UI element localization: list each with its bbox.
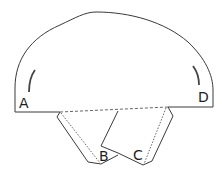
dome-outline [15,12,213,112]
label-b: B [99,149,109,163]
left-flap-fold [61,113,100,163]
folded-dome-diagram: A D B C [0,0,222,180]
left-flap-outline [57,112,118,164]
label-a: A [19,96,29,110]
arc-mark-left [29,70,35,92]
fold-line-base [60,107,168,112]
diagram-canvas [0,0,222,180]
label-d: D [198,90,209,104]
arc-mark-right [193,66,199,85]
label-c: C [133,148,143,162]
